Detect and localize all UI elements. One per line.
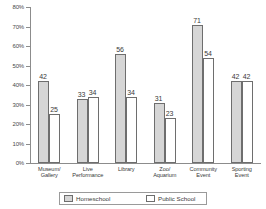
bar-public-school: [203, 58, 214, 163]
x-category-label-line: Library: [107, 166, 146, 172]
y-tick-label: 80%: [0, 4, 24, 10]
x-category-label-line: Aquarium: [146, 172, 185, 178]
bar-public-school: [88, 97, 99, 163]
bar-public-school: [242, 81, 253, 163]
x-category-label: CommunityEvent: [184, 166, 223, 178]
bar-group: 7154: [192, 7, 214, 163]
chart-legend: Homeschool Public School: [59, 192, 207, 205]
bar-homeschool: [38, 81, 49, 163]
legend-item-homeschool: Homeschool: [60, 193, 146, 204]
x-axis-line: [30, 163, 261, 164]
x-category-label-line: Performance: [69, 172, 108, 178]
legend-label-homeschool: Homeschool: [76, 195, 110, 202]
y-tick-label: 60%: [0, 43, 24, 49]
bar-homeschool: [77, 99, 88, 163]
bar-value-label: 34: [89, 89, 97, 96]
y-tick-label: 40%: [0, 82, 24, 88]
bar-value-label: 23: [166, 110, 174, 117]
bar-value-label: 42: [243, 73, 251, 80]
bar-value-label: 54: [204, 50, 212, 57]
bar-group: 3123: [154, 7, 176, 163]
grouped-bar-chart: 80%70%60%50%40%30%20%10%0% 4225333456343…: [0, 0, 266, 209]
bar-group: 3334: [77, 7, 99, 163]
bar-value-label: 71: [193, 17, 201, 24]
legend-item-public-school: Public School: [146, 193, 196, 204]
bar-homeschool: [115, 54, 126, 163]
bar-public-school: [165, 118, 176, 163]
public-school-swatch-icon: [146, 195, 155, 202]
bar-group: 5634: [115, 7, 137, 163]
bar-homeschool: [192, 25, 203, 163]
legend-label-public-school: Public School: [158, 195, 196, 202]
x-category-label-line: Event: [223, 172, 262, 178]
bar-group: 4225: [38, 7, 60, 163]
x-category-label: Museum/Gallery: [30, 166, 69, 178]
bar-value-label: 31: [155, 95, 163, 102]
x-category-label: SportingEvent: [223, 166, 262, 178]
bar-value-label: 25: [50, 106, 58, 113]
x-category-label-line: Gallery: [30, 172, 69, 178]
y-tick-label: 20%: [0, 121, 24, 127]
plot-area: 422533345634312371544242: [30, 7, 261, 163]
bar-homeschool: [231, 81, 242, 163]
bar-homeschool: [154, 103, 165, 163]
bar-value-label: 42: [39, 73, 47, 80]
y-tick-label: 0%: [0, 160, 24, 166]
x-category-label-line: Event: [184, 172, 223, 178]
y-tick-label: 30%: [0, 102, 24, 108]
bar-public-school: [126, 97, 137, 163]
homeschool-swatch-icon: [64, 195, 73, 202]
bar-value-label: 42: [232, 73, 240, 80]
bar-public-school: [49, 114, 60, 163]
bar-value-label: 33: [78, 91, 86, 98]
bar-group: 4242: [231, 7, 253, 163]
y-tick-mark: [26, 163, 31, 164]
x-category-label: LivePerformance: [69, 166, 108, 178]
y-tick-label: 50%: [0, 63, 24, 69]
y-tick-label: 10%: [0, 141, 24, 147]
x-category-label: Library: [107, 166, 146, 172]
y-tick-label: 70%: [0, 24, 24, 30]
bar-value-label: 56: [116, 46, 124, 53]
bar-value-label: 34: [127, 89, 135, 96]
x-category-label: Zoo/Aquarium: [146, 166, 185, 178]
